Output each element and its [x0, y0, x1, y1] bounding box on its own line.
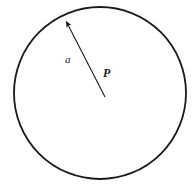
figure-canvas	[0, 0, 194, 192]
radius-arrow	[66, 21, 105, 97]
radius-label-a: a	[65, 54, 71, 65]
circle-outline	[14, 7, 186, 179]
geometry-figure: a P	[0, 0, 194, 192]
center-point-label-p: P	[103, 67, 110, 79]
